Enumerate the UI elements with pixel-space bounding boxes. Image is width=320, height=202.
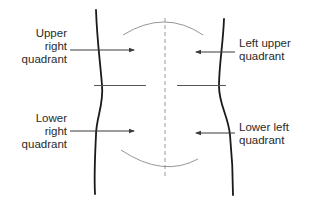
label-line: quadrant <box>22 53 67 66</box>
left-body-outline <box>95 10 103 194</box>
label-line: Lower left <box>239 121 289 134</box>
label-line: Left upper <box>239 37 291 50</box>
label-upper-right-quadrant: Upper right quadrant <box>22 27 67 66</box>
label-line: right <box>22 125 67 138</box>
label-line: quadrant <box>239 50 291 63</box>
label-line: Lower <box>22 112 67 125</box>
upper-arc <box>123 22 203 35</box>
label-line: Upper <box>22 27 67 40</box>
label-left-upper-quadrant: Left upper quadrant <box>239 37 291 63</box>
label-line: quadrant <box>22 138 67 151</box>
label-line: right <box>22 40 67 53</box>
label-line: quadrant <box>239 134 289 147</box>
right-body-outline <box>219 19 233 195</box>
lower-arc <box>121 150 198 167</box>
label-lower-right-quadrant: Lower right quadrant <box>22 112 67 151</box>
label-lower-left-quadrant: Lower left quadrant <box>239 121 289 147</box>
